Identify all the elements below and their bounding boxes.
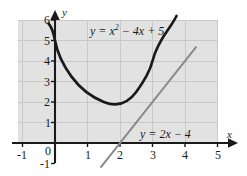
y-axis-arrowhead	[50, 10, 60, 20]
ytick-label-3: 3	[44, 76, 50, 88]
ytick-label-6: 6	[44, 14, 50, 26]
parabola-eq-prefix: y = x	[90, 24, 115, 38]
line-equation-label: y = 2x − 4	[140, 127, 191, 142]
xtick-label-1: 1	[85, 149, 91, 161]
x-axis-label: x	[227, 128, 232, 140]
ytick-label--1: -1	[40, 158, 50, 170]
ytick-label-5: 5	[44, 35, 50, 47]
xtick-label-3: 3	[150, 149, 156, 161]
ytick-label-4: 4	[44, 55, 50, 67]
y-axis-label: y	[62, 6, 67, 18]
ytick-label-2: 2	[44, 96, 50, 108]
xtick-label-0: 0	[45, 145, 51, 157]
xtick-label-2: 2	[117, 149, 123, 161]
parabola-equation-label: y = x2 − 4x + 5	[90, 23, 164, 39]
xtick-label-5: 5	[215, 149, 221, 161]
parabola-eq-suffix: − 4x + 5	[119, 24, 165, 38]
ytick-label-1: 1	[45, 117, 51, 129]
xtick-label-4: 4	[182, 149, 188, 161]
graph-figure: -1 0 1 2 3 4 5 -1 1 2 3 4 5 6 y x y = x2…	[0, 0, 247, 176]
xtick-label--1: -1	[17, 149, 27, 161]
